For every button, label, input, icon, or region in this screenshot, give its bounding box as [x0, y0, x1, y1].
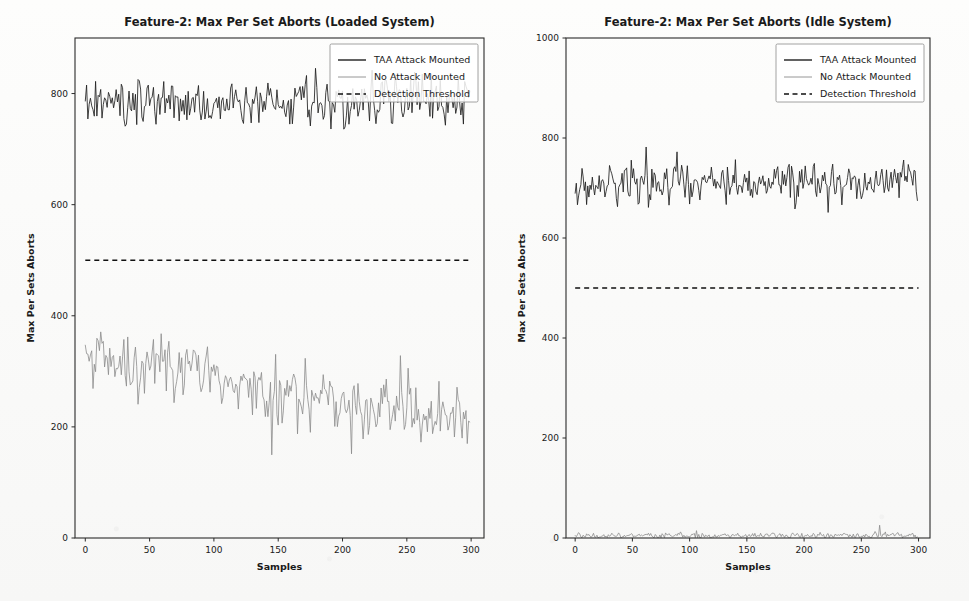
x-tick-label: 0: [572, 545, 578, 555]
legend-label: No Attack Mounted: [820, 71, 911, 82]
y-tick-label: 600: [542, 233, 559, 243]
x-axis-label-left: Samples: [257, 561, 303, 572]
legend-label: TAA Attack Mounted: [373, 54, 470, 65]
y-axis-label-right: Max Per Sets Aborts: [516, 233, 527, 342]
legend-label: Detection Threshold: [374, 88, 470, 99]
plot-area-left: [85, 68, 471, 455]
x-tick-label: 50: [627, 545, 639, 555]
legend-label: No Attack Mounted: [374, 71, 465, 82]
chart-panel-left: Feature-2: Max Per Set Aborts (Loaded Sy…: [25, 15, 484, 572]
y-tick-label: 0: [62, 533, 68, 543]
x-tick-label: 200: [334, 545, 351, 555]
y-tick-label: 400: [542, 333, 559, 343]
y-tick-label: 200: [542, 433, 559, 443]
y-tick-label: 600: [51, 200, 68, 210]
chart-title-right: Feature-2: Max Per Set Aborts (Idle Syst…: [604, 15, 891, 29]
chart-title-left: Feature-2: Max Per Set Aborts (Loaded Sy…: [124, 15, 434, 29]
legend-left: TAA Attack MountedNo Attack MountedDetec…: [330, 44, 478, 102]
y-axis-label-left: Max Per Sets Aborts: [25, 233, 36, 342]
plot-area-right: [575, 147, 918, 538]
chart-panel-right: Feature-2: Max Per Set Aborts (Idle Syst…: [516, 15, 930, 572]
legend-label: Detection Threshold: [820, 88, 916, 99]
x-tick-label: 300: [463, 545, 480, 555]
y-tick-label: 200: [51, 422, 68, 432]
x-tick-label: 300: [910, 545, 927, 555]
legend-label: TAA Attack Mounted: [819, 54, 916, 65]
figure-canvas: Feature-2: Max Per Set Aborts (Loaded Sy…: [0, 0, 969, 601]
x-tick-label: 100: [681, 545, 698, 555]
x-tick-label: 250: [853, 545, 870, 555]
legend-right: TAA Attack MountedNo Attack MountedDetec…: [776, 44, 924, 102]
x-axis-label-right: Samples: [725, 561, 771, 572]
y-tick-label: 800: [542, 133, 559, 143]
x-tick-label: 0: [82, 545, 88, 555]
y-tick-label: 1000: [536, 33, 559, 43]
x-tick-label: 200: [795, 545, 812, 555]
y-tick-label: 400: [51, 311, 68, 321]
y-tick-label: 0: [553, 533, 559, 543]
x-tick-label: 100: [205, 545, 222, 555]
x-tick-label: 150: [270, 545, 287, 555]
x-tick-label: 250: [398, 545, 415, 555]
series-no-attack-mounted-left: [85, 332, 470, 455]
series-no-attack-mounted-right: [575, 525, 917, 538]
x-tick-label: 150: [738, 545, 755, 555]
x-tick-label: 50: [144, 545, 156, 555]
series-taa-attack-mounted-right: [575, 147, 917, 212]
y-tick-label: 800: [51, 89, 68, 99]
